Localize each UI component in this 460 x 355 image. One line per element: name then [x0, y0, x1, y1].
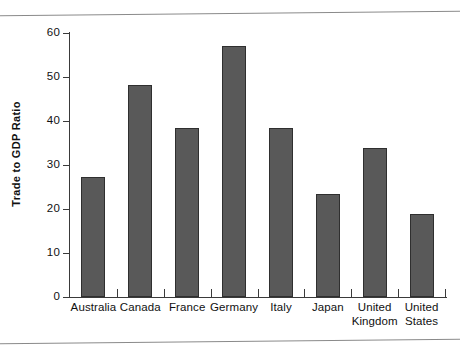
y-axis-tick: [63, 209, 70, 210]
x-axis-tick: [258, 289, 259, 297]
y-axis-tick-label: 30: [30, 159, 60, 171]
y-axis-tick-label: 20: [30, 203, 60, 215]
bar-australia: [81, 177, 105, 297]
bar-united-kingdom: [363, 148, 387, 297]
x-axis-tick: [445, 289, 446, 297]
y-axis-tick: [63, 165, 70, 166]
x-axis-tick: [117, 289, 118, 297]
x-axis-tick: [164, 289, 165, 297]
y-axis-tick-label: 10: [30, 247, 60, 259]
x-axis-tick: [398, 289, 399, 297]
x-axis-tick: [304, 289, 305, 297]
bar-japan: [316, 194, 340, 297]
bar-france: [175, 128, 199, 297]
x-axis-label-line: States: [384, 315, 460, 329]
x-axis-tick: [211, 289, 212, 297]
bar-italy: [269, 128, 293, 297]
y-axis-title: Trade to GDP Ratio: [10, 94, 22, 214]
plot-area: [70, 33, 445, 297]
y-axis-tick: [63, 297, 70, 298]
y-axis-tick: [63, 121, 70, 122]
x-axis-tick: [351, 289, 352, 297]
y-axis-tick: [63, 77, 70, 78]
x-axis-label-line: United: [384, 301, 460, 315]
y-axis-tick: [63, 33, 70, 34]
bar-united-states: [410, 214, 434, 297]
y-axis-tick: [63, 253, 70, 254]
x-axis-line: [69, 297, 447, 298]
bar-canada: [128, 85, 152, 297]
y-axis-tick-label: 50: [30, 71, 60, 83]
y-axis-tick-label: 60: [30, 27, 60, 39]
bar-germany: [222, 46, 246, 297]
y-axis-tick-label: 40: [30, 115, 60, 127]
x-axis-label-united-states: UnitedStates: [384, 301, 460, 328]
